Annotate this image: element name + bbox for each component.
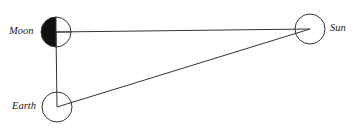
- moon-earth-sun-diagram: Moon Sun Earth: [0, 0, 360, 133]
- moon-label: Moon: [9, 25, 34, 36]
- earth-label: Earth: [12, 100, 36, 111]
- earth-sun-line: [57, 29, 310, 107]
- moon-sun-line: [56, 29, 310, 32]
- sun-label: Sun: [330, 22, 346, 33]
- diagram-canvas: [0, 0, 360, 133]
- moon-icon: [41, 17, 71, 47]
